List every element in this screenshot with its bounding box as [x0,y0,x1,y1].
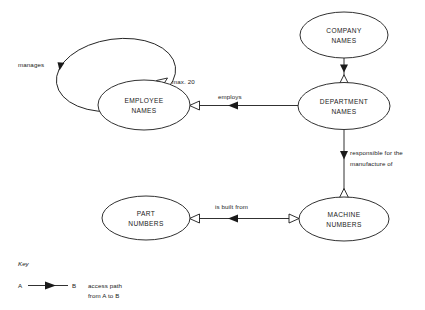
entity-part-numbers[interactable]: PART NUMBERS [102,196,190,240]
entity-employee-names[interactable]: EMPLOYEE NAMES [98,80,190,130]
link-built-from[interactable] [190,214,300,223]
part-numbers-label-line2: NUMBERS [128,220,164,227]
key-label-b: B [72,282,76,289]
machine-numbers-label-line2: NUMBERS [326,221,362,228]
employs-crowsfoot-marker [190,101,200,110]
built-from-arrowhead [228,215,238,223]
entity-machine-numbers[interactable]: MACHINE NUMBERS [299,197,389,241]
part-numbers-ellipse [102,196,190,240]
employee-names-label-line1: EMPLOYEE [124,97,163,104]
employee-names-ellipse [98,80,190,130]
part-numbers-label-line1: PART [137,210,155,217]
max20-label: max. 20 [172,78,195,85]
key-desc-line2: from A to B [88,292,119,299]
responsible-arrowhead [340,151,348,160]
machine-numbers-label-line1: MACHINE [328,211,361,218]
key-legend: Key A B access path from A to B [18,260,123,299]
key-arrowhead [45,282,56,290]
responsible-crowsfoot-marker [339,189,348,198]
company-names-label-line2: NAMES [331,37,356,44]
employee-names-label-line2: NAMES [131,107,156,114]
employs-label: employs [218,93,242,100]
responsible-label-line1: responsible for the [350,149,403,156]
company-department-arrowhead [340,65,348,73]
machine-numbers-ellipse [299,197,389,241]
built-from-label: is built from [215,203,248,210]
responsible-label-line2: manufacture of [350,160,393,167]
entity-department-names[interactable]: DEPARTMENT NAMES [298,83,390,130]
built-from-crowsfoot-marker-machine [289,214,299,223]
department-names-label-line1: DEPARTMENT [320,98,368,105]
link-employs[interactable] [190,101,299,110]
manages-label: manages [18,61,44,68]
entity-company-names[interactable]: COMPANY NAMES [300,12,388,58]
key-label-a: A [18,282,23,289]
key-title: Key [18,260,30,267]
built-from-crowsfoot-marker-part [190,214,200,223]
key-desc-line1: access path [88,282,123,289]
link-company-department[interactable] [339,58,348,84]
diagram-canvas: EMPLOYEE NAMES COMPANY NAMES DEPARTMENT … [0,0,425,310]
company-names-label-line1: COMPANY [326,27,362,34]
department-names-ellipse [298,83,390,130]
entity-diagram: EMPLOYEE NAMES COMPANY NAMES DEPARTMENT … [0,0,425,310]
department-names-label-line2: NAMES [331,108,356,115]
employs-arrowhead [228,102,238,110]
company-names-ellipse [300,12,388,58]
link-responsible[interactable] [339,130,348,198]
